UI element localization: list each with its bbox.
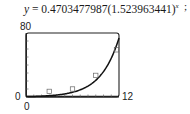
fit-curve [26, 38, 119, 97]
plot-area [0, 0, 190, 114]
data-points [47, 48, 119, 94]
data-point [70, 87, 74, 91]
plot-frame [26, 33, 119, 97]
data-point [94, 73, 98, 77]
data-point [47, 89, 51, 93]
